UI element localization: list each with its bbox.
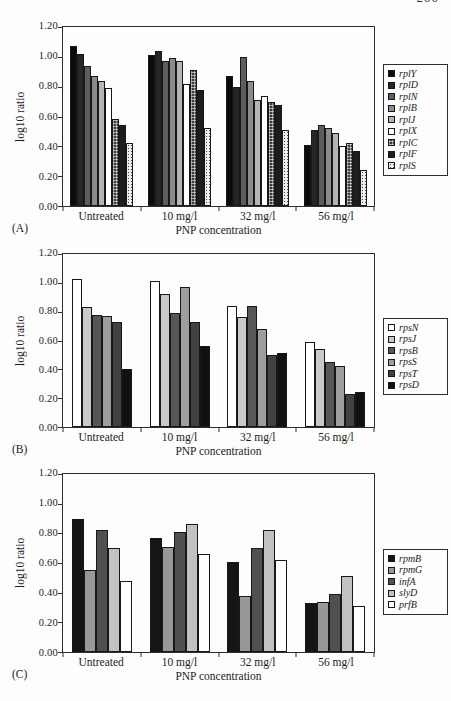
bar-rpld-untreated: [77, 54, 84, 206]
bar-rplb-untreated: [91, 76, 98, 206]
bar-rpsj-10-mg-l: [160, 294, 170, 427]
bar-slyd-10-mg-l: [186, 524, 198, 652]
x-tick-label-56-mg-l: 56 mg/l: [297, 656, 375, 668]
bar-rply-10-mg-l: [148, 55, 155, 206]
x-tick-label-untreated: Untreated: [62, 656, 140, 668]
y-tick-label-0-20: 0.20: [39, 393, 58, 404]
legend-swatch-rplc: [388, 139, 395, 146]
bar-rpls-untreated: [126, 143, 133, 206]
legend-swatch-rplb: [388, 105, 395, 112]
y-tick-label-0-40: 0.40: [39, 587, 58, 598]
legend-label-infa: infA: [399, 577, 416, 587]
y-tick-mark: [58, 254, 62, 255]
y-tick-label-1-00: 1.00: [39, 50, 58, 61]
bar-rpld-32-mg-l: [233, 87, 240, 206]
bar-rplj-32-mg-l: [254, 100, 261, 206]
bar-rpln-56-mg-l: [318, 125, 325, 206]
legend-swatch-infa: [388, 578, 395, 585]
bar-rpst-10-mg-l: [190, 322, 200, 427]
y-tick-label-0-60: 0.60: [39, 335, 58, 346]
bar-rpsd-32-mg-l: [277, 353, 287, 427]
y-tick-label-1-00: 1.00: [39, 276, 58, 287]
legend-item-rplj: rplJ: [388, 114, 445, 126]
bar-rplc-10-mg-l: [190, 70, 197, 206]
bar-group-10-mg-l: [141, 27, 219, 206]
bar-rplb-56-mg-l: [325, 128, 332, 206]
legend-swatch-rplx: [388, 128, 395, 135]
legend-swatch-rpld: [388, 82, 395, 89]
bar-slyd-56-mg-l: [341, 576, 353, 652]
legend-label-rpss: rpsS: [399, 357, 417, 367]
bar-rpsn-56-mg-l: [305, 342, 315, 427]
bar-rplx-32-mg-l: [261, 96, 268, 206]
y-tick-mark: [58, 427, 62, 428]
y-tick-mark: [58, 206, 62, 207]
legend-item-rplb: rplB: [388, 103, 445, 115]
x-tick-label-untreated: Untreated: [62, 431, 140, 443]
y-tick-mark: [58, 176, 62, 177]
legend-swatch-rpss: [388, 359, 395, 366]
bar-rpmg-untreated: [84, 570, 96, 652]
y-axis-tick-labels: 1.201.000.800.600.400.200.00: [20, 253, 58, 428]
bar-rpst-56-mg-l: [345, 394, 355, 427]
bar-rpmb-56-mg-l: [305, 603, 317, 652]
bar-rpsj-untreated: [82, 307, 92, 427]
legend-item-rplx: rplX: [388, 126, 445, 138]
legend-swatch-rpsb: [388, 347, 395, 354]
y-tick-mark: [58, 27, 62, 28]
x-axis-tick-labels: Untreated10 mg/l32 mg/l56 mg/l: [62, 431, 375, 443]
y-tick-mark: [58, 146, 62, 147]
bar-rplf-32-mg-l: [275, 105, 282, 206]
bar-rpsj-56-mg-l: [315, 349, 325, 427]
bar-rplx-56-mg-l: [339, 146, 346, 206]
bar-infa-32-mg-l: [251, 548, 263, 652]
bar-rpln-32-mg-l: [240, 57, 247, 206]
legend-label-prfb: prfB: [399, 600, 417, 610]
legend-label-rpln: rplN: [399, 92, 417, 102]
y-tick-mark: [58, 87, 62, 88]
legend-item-rpls: rplS: [388, 160, 445, 172]
y-tick-mark: [58, 369, 62, 370]
panel-label-c: (C): [12, 668, 27, 680]
y-tick-mark: [58, 398, 62, 399]
bar-rplb-32-mg-l: [247, 81, 254, 206]
y-tick-label-0-00: 0.00: [39, 422, 58, 433]
x-tick-label-32-mg-l: 32 mg/l: [219, 656, 297, 668]
legend-item-rpmg: rpmG: [388, 565, 445, 577]
legend-label-rpls: rplS: [399, 161, 416, 171]
bar-infa-untreated: [96, 530, 108, 652]
bar-rpsb-32-mg-l: [247, 306, 257, 427]
x-axis-title: PNP concentration: [62, 445, 375, 457]
y-tick-label-1-20: 1.20: [39, 20, 58, 31]
bar-rpmb-32-mg-l: [227, 562, 239, 652]
bar-rpst-untreated: [112, 322, 122, 427]
bar-rpsb-10-mg-l: [170, 313, 180, 427]
y-tick-label-0-20: 0.20: [39, 617, 58, 628]
panel-label-b: (B): [12, 443, 27, 455]
bar-rpsj-32-mg-l: [237, 317, 247, 427]
bar-rplf-10-mg-l: [197, 90, 204, 206]
y-tick-label-0-60: 0.60: [39, 111, 58, 122]
bar-rpss-56-mg-l: [335, 366, 345, 427]
legend-a: rplYrplDrplNrplBrplJrplXrplCrplFrplS: [383, 64, 448, 176]
y-tick-label-0-00: 0.00: [39, 201, 58, 212]
bar-rpmg-32-mg-l: [239, 596, 251, 652]
bar-group-untreated: [63, 254, 141, 427]
x-tick-label-10-mg-l: 10 mg/l: [140, 431, 218, 443]
bar-rpss-32-mg-l: [257, 329, 267, 427]
y-tick-mark: [58, 652, 62, 653]
bar-group-32-mg-l: [219, 27, 297, 206]
figure-page: 200 log10 ratio 1.201.000.800.600.400.20…: [0, 0, 451, 701]
bar-rplx-untreated: [105, 88, 112, 206]
legend-c: rpmBrpmGinfAslyDprfB: [383, 549, 448, 615]
legend-swatch-slyd: [388, 590, 395, 597]
bar-rply-32-mg-l: [226, 76, 233, 206]
legend-swatch-rpmg: [388, 567, 395, 574]
bar-rplf-untreated: [119, 125, 126, 206]
y-tick-label-0-20: 0.20: [39, 171, 58, 182]
bar-rplj-untreated: [98, 81, 105, 206]
legend-label-rplx: rplX: [399, 126, 417, 136]
legend-b: rpsNrpsJrpsBrpsSrpsTrpsD: [383, 318, 448, 395]
y-tick-mark: [58, 533, 62, 534]
y-tick-label-0-80: 0.80: [39, 527, 58, 538]
